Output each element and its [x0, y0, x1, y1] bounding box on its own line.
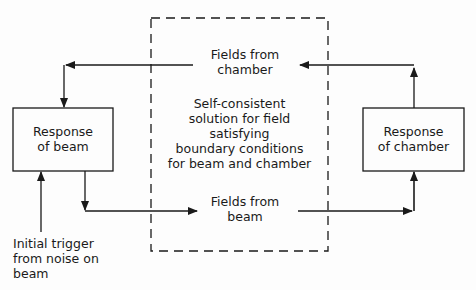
- feedback-diagram: Response of beam Response of chamber Fie…: [0, 0, 476, 290]
- center-text-line5: for beam and chamber: [151, 156, 328, 171]
- chamber-box-label-line2: of chamber: [363, 139, 464, 154]
- initial-trigger-label: Initial trigger from noise on beam: [13, 236, 99, 281]
- center-text-line4: boundary conditions: [151, 141, 328, 156]
- fields-from-beam-label: Fields from beam: [190, 194, 300, 224]
- chamber-box-label: Response of chamber: [363, 124, 464, 154]
- beam-box-label-line1: Response: [13, 124, 113, 139]
- fields-from-chamber-line2: chamber: [190, 62, 300, 77]
- center-text-line1: Self-consistent: [151, 96, 328, 111]
- fields-from-beam-line2: beam: [190, 209, 300, 224]
- center-text-line3: satisfying: [151, 126, 328, 141]
- fields-from-chamber-line1: Fields from: [190, 47, 300, 62]
- trigger-line1: Initial trigger: [13, 236, 99, 251]
- center-solution-text: Self-consistent solution for field satis…: [151, 96, 328, 171]
- fields-from-beam-line1: Fields from: [190, 194, 300, 209]
- fields-from-chamber-label: Fields from chamber: [190, 47, 300, 77]
- beam-box-label-line2: of beam: [13, 139, 113, 154]
- chamber-box-label-line1: Response: [363, 124, 464, 139]
- center-text-line2: solution for field: [151, 111, 328, 126]
- beam-box-label: Response of beam: [13, 124, 113, 154]
- trigger-line2: from noise on: [13, 251, 99, 266]
- trigger-line3: beam: [13, 266, 99, 281]
